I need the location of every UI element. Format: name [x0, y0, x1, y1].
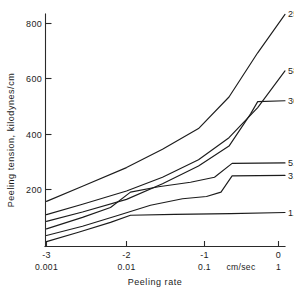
x-axis-title: Peeling rate	[128, 277, 183, 287]
y-tick-label-600: 600	[26, 74, 42, 84]
x-tick-label-val-0001: 0.001	[35, 262, 58, 272]
y-tick-label-800: 800	[26, 19, 42, 29]
curve-1-2	[47, 213, 286, 242]
x-tick-label-exp-neg1: -1	[200, 250, 209, 260]
series-label-5-1: 5.1	[288, 158, 294, 168]
curve-3-8	[47, 175, 286, 235]
x-tick-label-exp-neg3: -3	[42, 250, 51, 260]
y-tick-label-200: 200	[26, 185, 42, 195]
series-label-258: 258	[288, 9, 294, 19]
series-label-3-8: 3.8	[288, 171, 294, 181]
series-label-30-3: 30.3	[288, 96, 294, 106]
curve-58-4	[47, 71, 286, 215]
x-tick-label-exp-zero: 0	[276, 250, 281, 260]
data-curves	[47, 14, 286, 241]
x-tick-label-exp-neg2: -2	[122, 250, 131, 260]
y-axis-ticks	[46, 24, 52, 190]
x-axis-ticks	[47, 241, 279, 247]
y-axis-title: Peeling tension, kilodynes/cm	[6, 73, 16, 208]
x-tick-label-val-001: 0.01	[118, 262, 136, 272]
curve-258	[47, 14, 286, 201]
x-axis-units-label: cm/sec	[226, 262, 255, 272]
series-label-58-4: 58.4	[288, 66, 294, 76]
x-tick-label-val-1: 1	[276, 262, 281, 272]
chart-figure: 800 600 400 200 -3 -2 -1 0 0.001 0.01 0.…	[0, 0, 294, 291]
curve-5-1	[47, 163, 286, 229]
x-tick-label-val-01: 0.1	[198, 262, 211, 272]
series-label-1-2: 1.2	[288, 208, 294, 218]
chart-plot-area: 800 600 400 200 -3 -2 -1 0 0.001 0.01 0.…	[0, 0, 294, 291]
curve-30-3	[47, 101, 286, 222]
y-tick-label-400: 400	[26, 130, 42, 140]
